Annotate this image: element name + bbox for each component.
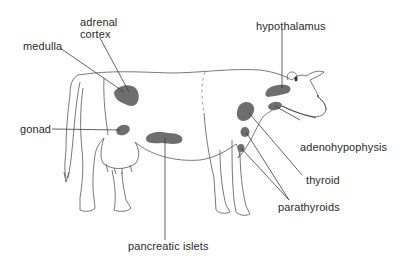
- label-adrenal-cortex-line1: adrenal: [80, 16, 117, 28]
- leader-adenohypophysis: [275, 106, 300, 120]
- leader-lines: [52, 30, 316, 240]
- leader-parathyroid-2: [241, 148, 289, 200]
- ear-spot: [294, 77, 297, 82]
- hypothalamus-region: [265, 85, 290, 97]
- label-hypothalamus: hypothalamus: [256, 20, 326, 32]
- adrenal-gland: [114, 85, 139, 106]
- neck-gland: [237, 102, 254, 121]
- eye: [317, 95, 319, 97]
- leader-parathyroid-1: [246, 132, 289, 200]
- leader-adrenal-cortex: [100, 38, 129, 92]
- label-gonad: gonad: [20, 123, 51, 135]
- label-parathyroids: parathyroids: [278, 201, 340, 213]
- label-adrenal-cortex-line2: cortex: [80, 28, 111, 40]
- pancreatic-islets: [146, 132, 182, 144]
- label-medulla: medulla: [23, 40, 62, 52]
- label-thyroid: thyroid: [306, 174, 340, 186]
- endocrine-glands-cow-diagram: adrenal cortex medulla gonad hypothalamu…: [0, 0, 405, 265]
- leader-medulla: [60, 48, 124, 92]
- glands: [114, 85, 290, 152]
- label-adenohypophysis: adenohypophysis: [300, 141, 387, 153]
- leader-gonad: [52, 129, 120, 130]
- label-pancreatic-islets: pancreatic islets: [128, 240, 209, 252]
